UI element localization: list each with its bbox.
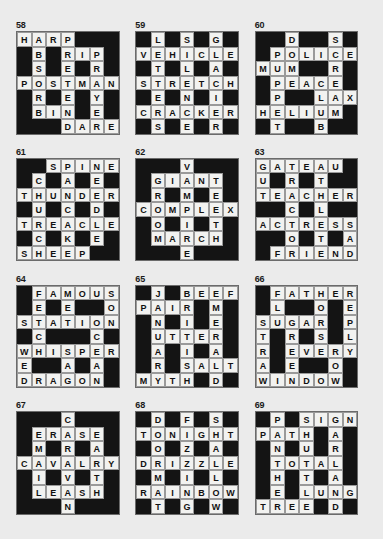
grid-cell-letter[interactable]: N: [270, 441, 285, 456]
grid-cell-letter[interactable]: E: [314, 246, 329, 261]
grid-cell-letter[interactable]: A: [328, 90, 343, 105]
grid-cell-letter[interactable]: G: [285, 315, 300, 330]
grid-cell-letter[interactable]: R: [209, 119, 224, 134]
grid-cell-letter[interactable]: O: [151, 217, 166, 232]
grid-cell-letter[interactable]: I: [46, 105, 61, 120]
grid-cell-letter[interactable]: R: [343, 286, 358, 301]
grid-cell-letter[interactable]: T: [194, 76, 209, 91]
grid-cell-letter[interactable]: E: [285, 358, 300, 373]
grid-cell-letter[interactable]: I: [165, 173, 180, 188]
grid-cell-letter[interactable]: E: [90, 173, 105, 188]
grid-cell-letter[interactable]: D: [209, 373, 224, 388]
grid-cell-letter[interactable]: E: [209, 202, 224, 217]
grid-cell-letter[interactable]: M: [209, 300, 224, 315]
grid-cell-letter[interactable]: Y: [151, 373, 166, 388]
grid-cell-letter[interactable]: I: [314, 412, 329, 427]
grid-cell-letter[interactable]: F: [270, 286, 285, 301]
grid-cell-letter[interactable]: R: [285, 329, 300, 344]
grid-cell-letter[interactable]: V: [180, 159, 195, 174]
grid-cell-letter[interactable]: B: [32, 47, 47, 62]
grid-cell-letter[interactable]: E: [180, 76, 195, 91]
grid-cell-letter[interactable]: H: [223, 76, 238, 91]
grid-cell-letter[interactable]: P: [61, 32, 76, 47]
grid-cell-letter[interactable]: T: [180, 329, 195, 344]
grid-cell-letter[interactable]: U: [299, 441, 314, 456]
grid-cell-letter[interactable]: E: [104, 159, 119, 174]
grid-cell-letter[interactable]: C: [90, 329, 105, 344]
grid-cell-letter[interactable]: H: [314, 286, 329, 301]
grid-cell-letter[interactable]: I: [180, 470, 195, 485]
grid-cell-letter[interactable]: E: [285, 344, 300, 359]
grid-cell-letter[interactable]: M: [151, 470, 166, 485]
grid-cell-letter[interactable]: E: [194, 329, 209, 344]
grid-cell-letter[interactable]: R: [90, 456, 105, 471]
grid-cell-letter[interactable]: G: [256, 159, 271, 174]
grid-cell-letter[interactable]: O: [151, 202, 166, 217]
grid-cell-letter[interactable]: V: [136, 47, 151, 62]
grid-cell-letter[interactable]: P: [270, 412, 285, 427]
grid-cell-letter[interactable]: A: [32, 456, 47, 471]
grid-cell-letter[interactable]: R: [32, 373, 47, 388]
grid-cell-letter[interactable]: P: [343, 315, 358, 330]
grid-cell-letter[interactable]: Z: [180, 456, 195, 471]
grid-cell-letter[interactable]: L: [209, 456, 224, 471]
grid-cell-letter[interactable]: P: [270, 47, 285, 62]
grid-cell-letter[interactable]: E: [46, 246, 61, 261]
grid-cell-letter[interactable]: I: [165, 456, 180, 471]
grid-cell-letter[interactable]: M: [328, 105, 343, 120]
grid-cell-letter[interactable]: E: [299, 499, 314, 514]
grid-cell-letter[interactable]: A: [61, 217, 76, 232]
grid-cell-letter[interactable]: R: [180, 300, 195, 315]
grid-cell-letter[interactable]: I: [299, 105, 314, 120]
grid-cell-letter[interactable]: T: [61, 76, 76, 91]
grid-cell-letter[interactable]: D: [90, 202, 105, 217]
grid-cell-letter[interactable]: A: [61, 485, 76, 500]
grid-cell-letter[interactable]: T: [17, 217, 32, 232]
grid-cell-letter[interactable]: S: [151, 119, 166, 134]
grid-cell-letter[interactable]: M: [151, 231, 166, 246]
grid-cell-letter[interactable]: N: [61, 188, 76, 203]
grid-cell-letter[interactable]: C: [180, 105, 195, 120]
grid-cell-letter[interactable]: L: [343, 329, 358, 344]
grid-cell-letter[interactable]: U: [90, 286, 105, 301]
grid-cell-letter[interactable]: C: [61, 412, 76, 427]
grid-cell-letter[interactable]: R: [32, 90, 47, 105]
grid-cell-letter[interactable]: A: [151, 485, 166, 500]
grid-cell-letter[interactable]: L: [209, 358, 224, 373]
grid-cell-letter[interactable]: E: [61, 90, 76, 105]
grid-cell-letter[interactable]: C: [299, 188, 314, 203]
grid-cell-letter[interactable]: R: [285, 173, 300, 188]
grid-cell-letter[interactable]: T: [314, 231, 329, 246]
grid-cell-letter[interactable]: H: [90, 485, 105, 500]
grid-cell-letter[interactable]: T: [165, 373, 180, 388]
grid-cell-letter[interactable]: L: [270, 300, 285, 315]
grid-cell-letter[interactable]: T: [299, 286, 314, 301]
grid-cell-letter[interactable]: R: [90, 119, 105, 134]
grid-cell-letter[interactable]: N: [104, 315, 119, 330]
grid-cell-letter[interactable]: R: [46, 427, 61, 442]
grid-cell-letter[interactable]: U: [256, 173, 271, 188]
grid-cell-letter[interactable]: M: [180, 188, 195, 203]
grid-cell-letter[interactable]: P: [90, 47, 105, 62]
grid-cell-letter[interactable]: S: [17, 246, 32, 261]
grid-cell-letter[interactable]: A: [209, 441, 224, 456]
grid-cell-letter[interactable]: T: [270, 456, 285, 471]
grid-cell-letter[interactable]: N: [328, 246, 343, 261]
grid-cell-letter[interactable]: M: [256, 61, 271, 76]
grid-cell-letter[interactable]: L: [209, 470, 224, 485]
grid-cell-letter[interactable]: A: [165, 105, 180, 120]
grid-cell-letter[interactable]: T: [270, 119, 285, 134]
grid-cell-letter[interactable]: I: [32, 470, 47, 485]
grid-cell-letter[interactable]: S: [32, 61, 47, 76]
grid-cell-letter[interactable]: I: [270, 373, 285, 388]
grid-cell-letter[interactable]: N: [90, 159, 105, 174]
grid-cell-letter[interactable]: A: [61, 456, 76, 471]
grid-cell-letter[interactable]: I: [180, 344, 195, 359]
grid-cell-letter[interactable]: H: [17, 32, 32, 47]
grid-cell-letter[interactable]: W: [256, 373, 271, 388]
grid-cell-letter[interactable]: E: [32, 427, 47, 442]
grid-cell-letter[interactable]: B: [180, 286, 195, 301]
grid-cell-letter[interactable]: C: [32, 231, 47, 246]
grid-cell-letter[interactable]: U: [32, 202, 47, 217]
grid-cell-letter[interactable]: N: [61, 499, 76, 514]
